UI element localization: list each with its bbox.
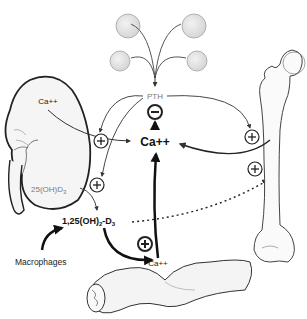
vitd-25-label: 25(OH)D3 [31,185,67,195]
parathyroid-gland-bottom-right [187,51,207,71]
intestine-illustration [87,260,252,313]
intestine-plus-symbol [138,237,152,251]
parathyroid-gland-bottom-left [110,51,130,71]
intestine-calcium-to-center-arrow [154,154,158,258]
intestine-calcium-label: Ca++ [148,259,168,268]
conversion-plus-symbol [90,178,104,192]
pth-to-conversion-arrow [102,98,143,176]
bone-vitd-plus-symbol [248,162,262,176]
parathyroid-gland-top-left [116,14,140,38]
calcium-homeostasis-diagram: PTH Ca++ Ca++ 25(OH)D3 1,25(OH)2-D3 [0,0,307,319]
pth-label: PTH [147,92,163,101]
pth-to-bone-arrow [167,96,250,128]
negative-feedback-symbol [148,105,162,119]
pth-to-kidney-arrow [100,96,143,132]
vitd-125-label: 1,25(OH)2-D3 [62,216,116,227]
calcium-center-label: Ca++ [140,135,169,149]
kidney-calcium-label: Ca++ [38,97,58,106]
macrophages-label: Macrophages [15,257,67,267]
parathyroid-glands [110,14,207,86]
vitd-to-bone-dotted-arrow [132,180,268,222]
bone-plus-symbol [245,130,259,144]
femur-bone-illustration [254,50,305,262]
macrophages-arrow [42,228,62,250]
parathyroid-gland-top-right [182,14,206,38]
pth-kidney-plus-symbol [94,134,108,148]
